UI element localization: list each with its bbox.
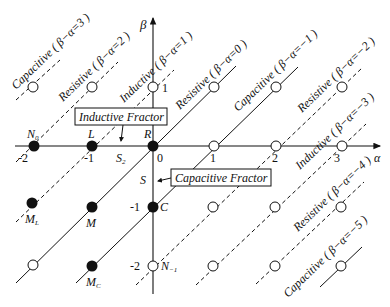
svg-text:S2: S2 [116,151,126,166]
svg-text:Inductive Fractor: Inductive Fractor [78,110,164,124]
label-l: L [87,127,95,141]
open-point [270,202,280,212]
capacitive-arrow [158,178,171,181]
label-c: C [160,200,169,214]
open-point [336,261,346,271]
inductive-arrow [121,125,123,141]
line-labels: Capacitive ( β−α=3 ) Resistive ( β−α=2 )… [8,10,377,300]
svg-text:N0: N0 [26,127,39,142]
point-m [87,202,98,213]
open-point [337,82,347,92]
point-n0 [29,141,40,152]
open-point [148,82,158,92]
label-s: S [140,173,146,187]
x-tick: 2 [272,151,278,165]
svg-text:MC: MC [85,275,101,290]
svg-text:N−1: N−1 [160,259,177,274]
open-point [271,82,281,92]
y-tick: -1 [130,200,140,214]
open-point [87,82,97,92]
open-point [208,202,218,212]
open-point [28,82,38,92]
x-tick: 3 [334,151,340,165]
x-tick: -2 [18,151,28,165]
open-point-n-minus1 [148,261,158,271]
open-point [270,261,280,271]
open-point [208,261,218,271]
alpha-axis-label: α [374,151,381,165]
open-point [209,141,219,151]
y-tick: 1 [162,81,168,95]
open-point [337,141,347,151]
point-ml [27,198,38,209]
x-tick: 1 [210,151,216,165]
point-l [87,141,98,152]
svg-text:ML: ML [24,212,39,227]
label-m: M [85,216,97,230]
y-tick: -2 [130,259,140,273]
point-r [148,141,159,152]
capacitive-fractor-box: Capacitive Fractor [158,169,271,186]
open-point [28,260,38,270]
beta-axis-label: β [139,17,147,32]
x-tick-labels: -2 -1 0 1 2 3 [18,151,340,165]
point-mc [87,261,98,272]
open-point [336,202,346,212]
svg-text:Capacitive Fractor: Capacitive Fractor [175,171,268,185]
x-tick: 0 [157,151,163,165]
label-r: R [143,127,152,141]
fractor-diagram: α β -2 -1 0 1 2 3 1 -1 -2 [0,0,390,307]
open-point [271,141,281,151]
x-tick: -1 [84,151,94,165]
point-c [148,202,159,213]
